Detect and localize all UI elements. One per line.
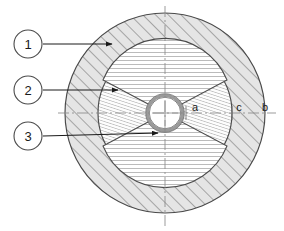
callout-3-label: 3	[24, 129, 31, 144]
dimension-label-b: b	[262, 101, 268, 113]
wedge-bottom	[0, 0, 284, 231]
technical-diagram: 1 2 3 a c b	[0, 0, 284, 231]
callout-2-label: 2	[24, 83, 31, 98]
cross-section-figure: 1 2 3 a c b	[0, 0, 284, 231]
callout-1-label: 1	[24, 37, 31, 52]
dimension-label-c: c	[236, 101, 242, 113]
dimension-label-a: a	[192, 101, 199, 113]
